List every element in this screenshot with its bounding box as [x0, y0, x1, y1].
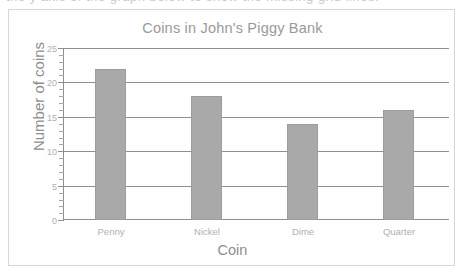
y-tick-major — [58, 220, 64, 221]
y-tick-label: 5 — [31, 182, 57, 192]
bar-quarter[interactable] — [383, 110, 414, 220]
chart-title: Coins in John's Piggy Bank — [9, 20, 456, 36]
x-tick-label-quarter: Quarter — [354, 226, 444, 237]
bar-nickel[interactable] — [191, 96, 222, 220]
x-tick-label-nickel: Nickel — [162, 226, 252, 237]
plot-area — [63, 48, 449, 220]
x-axis-title: Coin — [9, 242, 456, 258]
y-tick-label: 0 — [31, 216, 57, 226]
scan-clipped-text-artifact: the y axis of the graph below to show th… — [0, 0, 468, 9]
scan-artifact-text: the y axis of the graph below to show th… — [6, 0, 379, 4]
bar-penny[interactable] — [95, 69, 126, 220]
x-axis-tick-labels: Penny Nickel Dime Quarter — [63, 226, 449, 242]
y-axis-title: Number of coins — [30, 22, 47, 172]
x-tick-label-dime: Dime — [258, 226, 348, 237]
bar-dime[interactable] — [287, 124, 318, 220]
gridline-25 — [63, 48, 449, 49]
x-tick-label-penny: Penny — [66, 226, 156, 237]
chart-figure-frame: Coins in John's Piggy Bank 25 20 15 10 5… — [8, 9, 455, 266]
